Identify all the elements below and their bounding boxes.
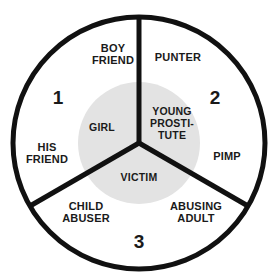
sector-number-2: 2 — [210, 87, 221, 109]
sector-number-1: 1 — [53, 87, 64, 109]
label-punter: PUNTER — [155, 51, 201, 63]
label-child-abuser: CHILD ABUSER — [62, 200, 110, 225]
label-abusing-adult: ABUSING ADULT — [170, 200, 222, 225]
label-victim: VICTIM — [121, 172, 158, 184]
label-boy-friend: BOY FRIEND — [92, 42, 134, 67]
sector-number-3: 3 — [134, 231, 145, 253]
label-young-prostitute: YOUNG PROSTI- TUTE — [150, 106, 194, 141]
label-pimp: PIMP — [213, 150, 241, 162]
venn-diagram: 1 BOY FRIEND HIS FRIEND GIRL 2 PUNTER PI… — [0, 0, 278, 280]
label-girl: GIRL — [89, 122, 115, 134]
label-his-friend: HIS FRIEND — [26, 141, 68, 166]
